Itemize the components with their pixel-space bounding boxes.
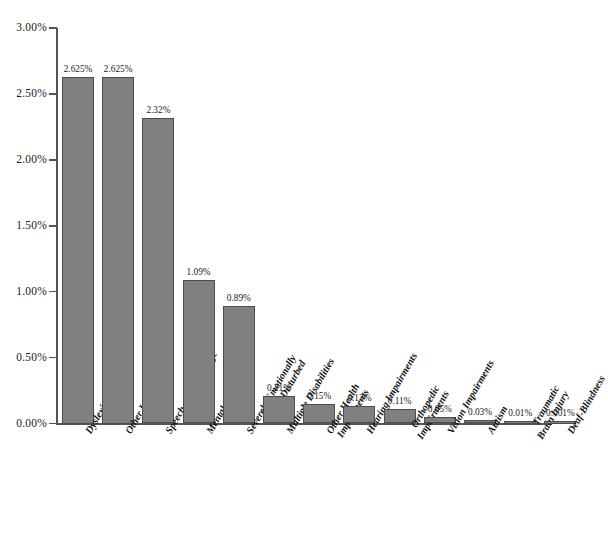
- bar-value-label: 1.09%: [169, 267, 229, 277]
- bar-value-label: 2.625%: [88, 64, 148, 74]
- x-axis-category-label: Deaf-Blindness: [565, 373, 607, 435]
- bar[interactable]: [223, 306, 255, 423]
- bar-value-label: 0.89%: [209, 293, 269, 303]
- bar[interactable]: [102, 77, 134, 423]
- bar[interactable]: [62, 77, 94, 423]
- bar-value-label: 2.32%: [128, 105, 188, 115]
